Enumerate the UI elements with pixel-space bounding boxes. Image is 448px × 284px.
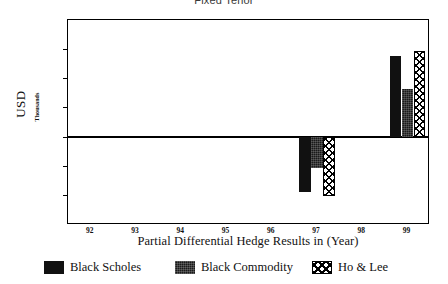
legend-swatch-black-scholes bbox=[44, 261, 64, 274]
x-axis-title: Partial Differential Hedge Results in (Y… bbox=[67, 234, 429, 249]
bar-ho-lee-99 bbox=[414, 51, 426, 137]
legend-item-black-commodity[interactable]: Black Commodity bbox=[175, 258, 293, 276]
chart-container: Fixed Tenor USD Thousands 403020100-10-2… bbox=[0, 0, 448, 284]
y-tick-30 bbox=[63, 49, 68, 50]
legend-swatch-ho-lee bbox=[312, 261, 332, 274]
bar-ho-lee-97 bbox=[323, 137, 335, 196]
chart-title: Fixed Tenor bbox=[0, 0, 448, 6]
legend-item-ho-lee[interactable]: Ho & Lee bbox=[312, 258, 388, 276]
y-tick--20 bbox=[63, 195, 68, 196]
bar-black-scholes-99 bbox=[390, 56, 402, 137]
y-tick-20 bbox=[63, 78, 68, 79]
chart-legend: Black ScholesBlack CommodityHo & Lee bbox=[0, 258, 448, 280]
legend-item-black-scholes[interactable]: Black Scholes bbox=[44, 258, 141, 276]
bar-black-commodity-99 bbox=[402, 89, 414, 137]
legend-label-ho-lee: Ho & Lee bbox=[338, 260, 388, 275]
y-tick--10 bbox=[63, 166, 68, 167]
legend-swatch-black-commodity bbox=[175, 261, 195, 274]
y-tick-10 bbox=[63, 107, 68, 108]
bar-black-scholes-97 bbox=[299, 137, 311, 192]
legend-label-black-commodity: Black Commodity bbox=[201, 260, 293, 275]
plot-area bbox=[67, 19, 429, 224]
y-tick-0 bbox=[63, 137, 68, 138]
y-axis-title: USD bbox=[13, 74, 29, 134]
bar-black-commodity-97 bbox=[311, 137, 323, 168]
legend-label-black-scholes: Black Scholes bbox=[70, 260, 141, 275]
zero-baseline bbox=[68, 136, 428, 137]
y-axis-units-label: Thousands bbox=[34, 84, 40, 130]
